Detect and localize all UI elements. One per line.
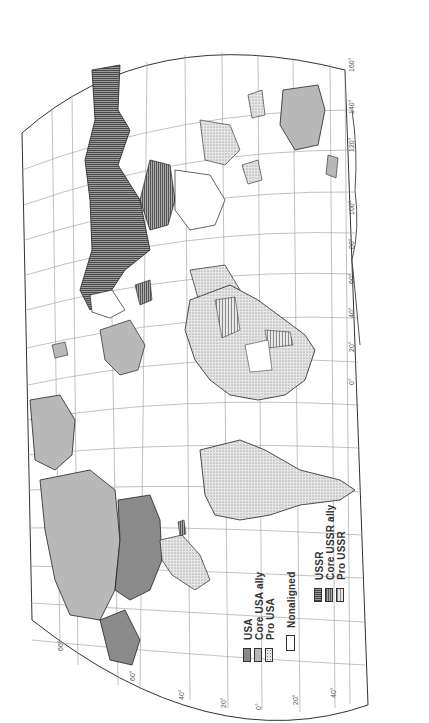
world-alignment-map	[0, 0, 429, 723]
legend-label-core-ussr-ally: Core USSR ally	[325, 504, 336, 580]
lat-label-bottom-1: 40°	[178, 689, 185, 700]
lon-label-120: 120°	[348, 138, 355, 152]
lat-label-bottom-2: 20°	[220, 697, 227, 708]
lon-label-40: 40°	[348, 307, 355, 318]
lon-label-0: 0°	[348, 378, 355, 385]
lon-label-60: 60°	[348, 273, 355, 284]
legend-label-nonaligned: Nonaligned	[286, 572, 297, 628]
lon-label-80: 80°	[348, 238, 355, 249]
lat-label-bottom-4: 20°	[292, 694, 299, 705]
legend-label-pro-usa: Pro USA	[265, 598, 276, 640]
legend-swatch-usa	[243, 648, 251, 662]
lon-label-100: 100°	[348, 201, 355, 215]
legend-swatch-core-ussr-ally	[325, 588, 333, 602]
region-iceland	[52, 342, 68, 358]
lon-label-20: 20°	[348, 341, 355, 352]
lat-label-bottom-0: 60°	[129, 670, 136, 681]
map-frame	[22, 55, 368, 721]
legend-label-ussr: USSR	[314, 551, 325, 580]
region-africa-nonaligned	[245, 340, 272, 372]
region-africa-pro-ussr-2	[265, 330, 293, 348]
legend-swatch-nonaligned	[286, 635, 295, 651]
legend-swatch-pro-ussr	[336, 588, 344, 602]
legend-swatch-pro-usa	[265, 648, 273, 662]
lat-label-bottom-3: 0°	[255, 703, 262, 710]
lat-label-60: 60°	[57, 640, 64, 651]
legend-swatch-core-usa-ally	[254, 648, 262, 662]
lon-label-140: 140°	[348, 100, 355, 114]
lon-label-160: 160°	[348, 58, 355, 72]
legend-label-core-usa-ally: Core USA ally	[254, 572, 265, 640]
legend-label-usa: USA	[243, 618, 254, 640]
legend-label-pro-ussr: Pro USSR	[336, 531, 347, 580]
lat-label-bottom-5: 40°	[330, 687, 337, 698]
region-new-zealand	[326, 155, 338, 178]
legend-swatch-ussr	[314, 588, 322, 602]
